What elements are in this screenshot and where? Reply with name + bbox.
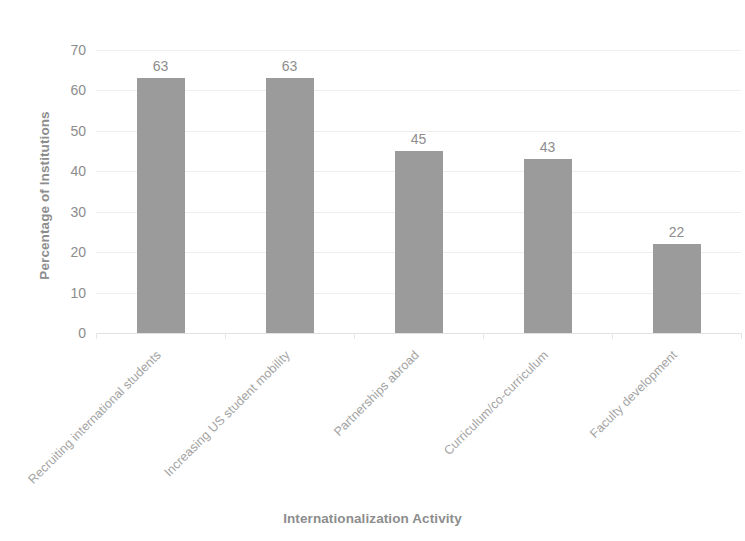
y-axis-tick-label: 70 <box>52 43 86 57</box>
y-axis-tick-label: 30 <box>52 205 86 219</box>
x-axis-tickmark <box>741 333 742 339</box>
gridline <box>96 50 741 51</box>
gridline <box>96 90 741 91</box>
bar-value-label: 22 <box>647 225 707 239</box>
bar <box>137 78 185 333</box>
bar <box>395 151 443 333</box>
axis-baseline <box>96 333 741 334</box>
bar <box>653 244 701 333</box>
x-axis-tickmark <box>612 333 613 339</box>
bar-value-label: 43 <box>518 140 578 154</box>
y-axis-tick-label: 60 <box>52 83 86 97</box>
plot-area <box>96 44 741 333</box>
y-axis-tick-label: 50 <box>52 124 86 138</box>
x-axis-tickmark <box>96 333 97 339</box>
bar <box>524 159 572 333</box>
y-axis-tick-label: 0 <box>52 326 86 340</box>
y-axis-tick-label: 20 <box>52 245 86 259</box>
y-axis-title: Percentage of Institutions <box>37 66 52 326</box>
bar-chart: Percentage of Institutions 7060504030201… <box>0 0 745 541</box>
y-axis-tick-label: 10 <box>52 286 86 300</box>
y-axis-tick-label: 40 <box>52 164 86 178</box>
x-axis-tickmark <box>354 333 355 339</box>
x-axis-title: Internationalization Activity <box>0 511 745 526</box>
x-axis-tickmark <box>483 333 484 339</box>
bar-value-label: 63 <box>260 59 320 73</box>
bar-value-label: 45 <box>389 132 449 146</box>
x-axis-tickmark <box>225 333 226 339</box>
bar-value-label: 63 <box>131 59 191 73</box>
bar <box>266 78 314 333</box>
